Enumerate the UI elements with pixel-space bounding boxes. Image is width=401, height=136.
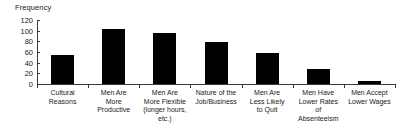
bar bbox=[205, 42, 228, 84]
bar bbox=[307, 69, 330, 84]
x-axis-category-label: Nature of the Job/Business bbox=[190, 89, 241, 106]
bar-chart-figure: Frequency 020406080100120 Cultural Reaso… bbox=[0, 0, 401, 136]
bars-group bbox=[0, 20, 401, 84]
x-axis-category-label: Cultural Reasons bbox=[37, 89, 88, 106]
x-axis-category-label: Men Accept Lower Wages bbox=[344, 89, 395, 106]
x-axis-tick-mark bbox=[190, 84, 191, 88]
x-axis-tick-mark bbox=[344, 84, 345, 88]
x-axis-tick-mark bbox=[395, 84, 396, 88]
x-axis-tick-mark bbox=[139, 84, 140, 88]
bar bbox=[358, 81, 381, 84]
x-axis-tick-mark bbox=[37, 84, 38, 88]
x-axis-tick-mark bbox=[88, 84, 89, 88]
x-axis-tick-mark bbox=[293, 84, 294, 88]
x-axis-category-label: Men Are More Productive bbox=[88, 89, 139, 115]
bar bbox=[153, 33, 176, 84]
x-axis-line bbox=[37, 84, 395, 85]
bar bbox=[102, 29, 125, 84]
x-axis-tick-mark bbox=[242, 84, 243, 88]
bar bbox=[51, 55, 74, 84]
x-axis-category-label: Men Are More Flexible (longer hours, etc… bbox=[139, 89, 190, 123]
x-axis-category-label: Men Have Lower Rates of Absenteeism bbox=[293, 89, 344, 123]
y-axis-title: Frequency bbox=[15, 3, 51, 12]
bar bbox=[256, 53, 279, 84]
x-axis-category-label: Men Are Less Likely to Quit bbox=[242, 89, 293, 115]
